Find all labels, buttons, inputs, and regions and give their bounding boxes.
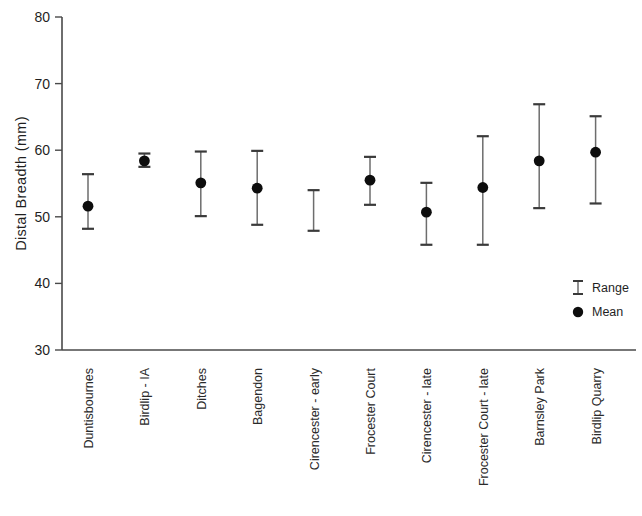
x-axis-category-label: Frocester Court — [364, 367, 378, 454]
y-tick-label: 70 — [34, 76, 50, 92]
data-point-group — [308, 190, 320, 231]
mean-marker — [421, 207, 432, 218]
mean-marker — [365, 175, 376, 186]
y-tick-label: 30 — [34, 342, 50, 358]
chart-container: 304050607080Distal Breadth (mm)Duntisbou… — [0, 0, 642, 516]
x-axis-category-label: Birdlip - IA — [138, 367, 152, 425]
data-point-group — [195, 152, 207, 217]
data-point-group — [533, 104, 545, 208]
x-axis-category-label: Ditches — [195, 368, 209, 410]
distal-breadth-chart: 304050607080Distal Breadth (mm)Duntisbou… — [0, 0, 642, 516]
x-axis-category-label: Duntisbournes — [82, 368, 96, 449]
x-axis-category-label: Barnsley Park — [533, 367, 547, 446]
legend-mean-marker — [573, 307, 583, 317]
mean-marker — [139, 155, 150, 166]
legend-label-range: Range — [592, 281, 629, 295]
y-axis-title: Distal Breadth (mm) — [13, 116, 29, 251]
mean-marker — [534, 155, 545, 166]
mean-marker — [252, 183, 263, 194]
y-tick-label: 80 — [34, 9, 50, 25]
data-point-group — [364, 157, 376, 205]
mean-marker — [83, 201, 94, 212]
x-axis-category-label: Frocester Court - late — [477, 368, 491, 486]
x-axis-category-label: Birdlip Quarry — [590, 367, 604, 444]
x-axis-category-label: Cirencester - early — [308, 367, 322, 470]
data-point-group — [82, 174, 94, 229]
y-tick-label: 60 — [34, 142, 50, 158]
y-tick-label: 40 — [34, 275, 50, 291]
data-point-group — [251, 151, 263, 225]
mean-marker — [590, 147, 601, 158]
x-axis-category-label: Bagendon — [251, 368, 265, 425]
y-tick-label: 50 — [34, 209, 50, 225]
mean-marker — [195, 177, 206, 188]
plot-area: 304050607080Distal Breadth (mm)Duntisbou… — [13, 9, 636, 486]
data-point-group — [590, 116, 602, 203]
chart-legend: RangeMean — [573, 281, 629, 319]
data-point-group — [420, 183, 432, 245]
x-axis-category-label: Cirencester - late — [420, 368, 434, 463]
data-point-group — [477, 136, 489, 245]
data-point-group — [138, 154, 150, 167]
legend-label-mean: Mean — [592, 305, 623, 319]
mean-marker — [477, 182, 488, 193]
